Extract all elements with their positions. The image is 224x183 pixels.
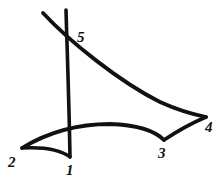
curve-canvas [0, 0, 224, 183]
vertex-label-3: 3 [158, 146, 166, 161]
vertex-label-1: 1 [66, 163, 74, 178]
vertical-edge-5-to-1 [66, 10, 70, 157]
figure-root: 1 2 3 4 5 [0, 0, 224, 183]
right-edge-3-to-4 [164, 117, 206, 140]
inner-arc-2-to-1 [22, 148, 70, 157]
lower-edge-2-to-3 [22, 124, 164, 148]
vertex-label-5: 5 [77, 30, 85, 45]
stroke-group [22, 10, 206, 157]
vertex-label-2: 2 [8, 155, 16, 170]
vertex-label-4: 4 [205, 120, 213, 135]
